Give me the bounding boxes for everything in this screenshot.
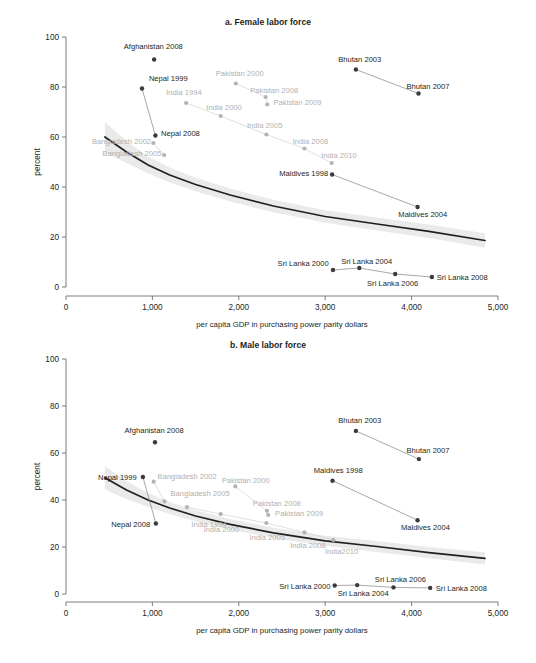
data-point[interactable] [153,440,157,444]
y-axis-title: percent [33,462,42,490]
x-tick-label: 2,000 [229,609,250,618]
x-axis-title: per capita GDP in purchasing power parit… [196,320,368,329]
data-point-label: Bhutan 2003 [338,55,381,64]
y-tick-label: 40 [50,183,60,192]
x-tick-label: 4,000 [401,609,422,618]
data-point-label: India2010 [325,547,358,556]
data-point-label: Sri Lanka 2004 [341,257,392,266]
data-point-label: Sri Lanka 2006 [367,279,418,288]
panel-title: b. Male labor force [230,340,306,350]
data-point-label: India 2008 [293,137,328,146]
data-point[interactable] [393,272,397,276]
data-point[interactable] [234,81,238,85]
data-point[interactable] [152,480,156,484]
figure-container: a. Female labor force02040608010001,0002… [0,0,536,663]
data-point-label: Pakistan 2008 [250,86,298,95]
x-tick-label: 1,000 [142,303,163,312]
data-point[interactable] [415,518,419,522]
chart-male-labor-force: b. Male labor force02040608010001,0002,0… [0,335,536,663]
y-tick-label: 100 [45,33,59,42]
data-point[interactable] [219,512,223,516]
x-tick-label: 5,000 [488,303,509,312]
series-connector [186,103,332,163]
series-connector [335,585,431,588]
data-point[interactable] [265,509,269,513]
data-point[interactable] [417,457,421,461]
data-point-label: Sri Lanka 2004 [338,589,389,598]
data-point-label: India 2008 [290,541,325,550]
data-point-label: India 2005 [247,121,282,130]
y-tick-label: 20 [50,543,60,552]
series-connector [332,175,418,208]
data-point[interactable] [357,266,361,270]
data-point-label: Maldives 2004 [398,210,447,219]
data-point-label: India 1994 [166,88,201,97]
x-tick-label: 5,000 [488,609,509,618]
data-point-label: Afghanistan 2008 [125,426,184,435]
data-point[interactable] [302,146,306,150]
y-tick-label: 40 [50,496,60,505]
data-point[interactable] [264,95,268,99]
data-point[interactable] [266,513,270,517]
data-point[interactable] [265,102,269,106]
data-point[interactable] [162,153,166,157]
panel-female-labor-force: a. Female labor force02040608010001,0002… [0,0,536,335]
data-point-label: Sri Lanka 2008 [436,584,487,593]
data-point[interactable] [331,538,335,542]
data-point[interactable] [428,586,432,590]
data-point[interactable] [184,101,188,105]
x-tick-label: 0 [64,303,69,312]
data-point[interactable] [355,583,359,587]
data-point[interactable] [302,530,306,534]
data-point[interactable] [141,475,145,479]
chart-female-labor-force: a. Female labor force02040608010001,0002… [0,0,536,335]
data-point[interactable] [219,114,223,118]
data-point[interactable] [354,429,358,433]
data-point[interactable] [151,141,155,145]
data-point-label: Nepal 1999 [98,473,137,482]
data-point-label: Nepal 1999 [149,74,188,83]
data-point[interactable] [430,275,434,279]
x-tick-label: 2,000 [229,303,250,312]
data-point-label: Pakistan 2009 [273,98,321,107]
data-point[interactable] [154,521,158,525]
data-point-label: India 2000 [206,103,241,112]
data-point[interactable] [185,505,189,509]
x-tick-label: 3,000 [315,303,336,312]
data-point-label: India 2005 [250,533,285,542]
y-tick-label: 100 [45,355,59,364]
x-tick-label: 3,000 [315,609,336,618]
data-point[interactable] [331,268,335,272]
data-point-label: Maldives 1998 [314,466,363,475]
data-point[interactable] [330,161,334,165]
y-tick-label: 20 [50,233,60,242]
data-point[interactable] [416,91,420,95]
series-connector [333,481,418,521]
x-tick-label: 4,000 [401,303,422,312]
data-point[interactable] [153,133,157,137]
data-point[interactable] [333,583,337,587]
data-point[interactable] [330,479,334,483]
data-point-label: Sri Lanka 2000 [278,259,329,268]
data-point-label: India 2010 [321,151,356,160]
y-tick-label: 60 [50,449,60,458]
data-point-label: India 2000 [204,525,239,534]
data-point[interactable] [330,172,334,176]
series-connector [142,89,155,136]
data-point[interactable] [391,585,395,589]
data-point[interactable] [233,484,237,488]
x-tick-label: 0 [64,609,69,618]
y-tick-label: 80 [50,402,60,411]
data-point[interactable] [264,132,268,136]
data-point[interactable] [354,67,358,71]
data-point[interactable] [152,57,156,61]
series-connector [333,268,432,277]
data-point-label: Bangladesh 2005 [171,489,230,498]
data-point-label: Nepal 2008 [161,129,200,138]
panel-title: a. Female labor force [225,17,311,27]
data-point[interactable] [264,521,268,525]
data-point-label: Sri Lanka 2008 [437,273,488,282]
data-point[interactable] [140,86,144,90]
data-point-label: Nepal 2008 [111,520,150,529]
data-point[interactable] [162,499,166,503]
